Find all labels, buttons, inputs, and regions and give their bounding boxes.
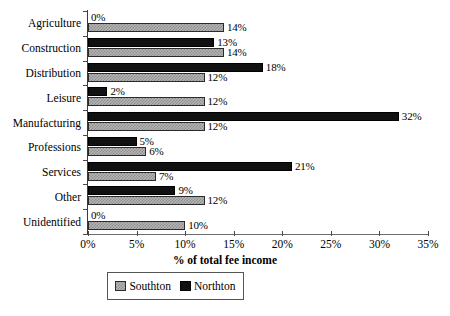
x-axis-tick-label: 25% [311,238,351,250]
y-axis-tick [83,160,88,161]
bar-northton [88,87,107,96]
bar-group: 21%7% [88,160,428,185]
y-axis-tick [83,135,88,136]
x-axis-tick-label: 30% [359,238,399,250]
bar-southton [88,73,205,82]
bar-southton [88,48,224,57]
bar-value-label-northton: 9% [178,185,192,196]
x-axis-tick [185,231,186,236]
category-label: Construction [0,42,81,54]
bar-group: 18%12% [88,61,428,86]
x-axis-tick-label: 0% [68,238,108,250]
x-axis-tick-label: 20% [262,238,302,250]
bar-chart: 0%14%13%14%18%12%2%12%32%12%5%6%21%7%9%1… [0,0,450,316]
bar-group: 9%12% [88,184,428,209]
bar-value-label-northton: 21% [295,161,315,172]
bar-northton [88,63,263,72]
y-axis-tick [83,184,88,185]
bar-group: 13%14% [88,36,428,61]
bar-southton [88,23,224,32]
x-axis-tick-label: 10% [165,238,205,250]
bar-southton [88,97,205,106]
legend-label-northton: Northton [194,280,236,292]
x-axis-tick [137,231,138,236]
bar-group: 32%12% [88,110,428,135]
x-axis-tick-label: 35% [408,238,448,250]
category-label: Services [0,166,81,178]
legend-entry-northton: Northton [180,280,236,292]
category-label: Agriculture [0,17,81,29]
y-axis-tick [83,85,88,86]
bar-group: 0%14% [88,11,428,36]
x-axis-tick [428,231,429,236]
legend-label-southton: Southton [129,280,171,292]
x-axis-tick [379,231,380,236]
y-axis-tick [83,110,88,111]
bar-southton [88,196,205,205]
bar-value-label-northton: 0% [91,12,105,23]
bar-value-label-southton: 14% [227,47,247,58]
category-label: Leisure [0,92,81,104]
bar-group: 2%12% [88,85,428,110]
y-axis-tick [83,209,88,210]
y-axis-tick [83,234,88,235]
bar-northton [88,137,137,146]
category-label: Other [0,191,81,203]
category-label: Manufacturing [0,117,81,129]
legend-swatch-southton [115,281,126,291]
bar-southton [88,122,205,131]
x-axis-tick [331,231,332,236]
y-axis-tick [83,11,88,12]
bar-value-label-southton: 14% [227,22,247,33]
x-axis-tick-label: 5% [117,238,157,250]
bar-value-label-southton: 12% [208,121,228,132]
bar-southton [88,221,185,230]
y-axis-tick [83,36,88,37]
bar-northton [88,162,292,171]
category-label: Unidentified [0,216,81,228]
bar-value-label-southton: 6% [149,146,163,157]
bar-northton [88,38,214,47]
bar-northton [88,186,175,195]
x-axis-tick [282,231,283,236]
bar-value-label-southton: 10% [188,220,208,231]
bar-value-label-northton: 2% [110,86,124,97]
category-label: Distribution [0,67,81,79]
bar-southton [88,172,156,181]
bar-value-label-northton: 0% [91,210,105,221]
x-axis-tick-label: 15% [214,238,254,250]
category-label: Professions [0,141,81,153]
plot-area: 0%14%13%14%18%12%2%12%32%12%5%6%21%7%9%1… [88,11,428,234]
x-axis-line [87,234,429,235]
bar-value-label-southton: 7% [159,171,173,182]
bar-group: 0%10% [88,209,428,234]
legend-swatch-northton [180,281,191,291]
legend-entry-southton: Southton [115,280,171,292]
bar-northton [88,112,399,121]
chart-legend: Southton Northton [107,272,244,300]
bar-value-label-southton: 12% [208,96,228,107]
bar-value-label-northton: 32% [402,111,422,122]
bar-southton [88,147,146,156]
bar-group: 5%6% [88,135,428,160]
x-axis-tick [234,231,235,236]
bar-value-label-southton: 12% [208,72,228,83]
bar-value-label-southton: 12% [208,195,228,206]
x-axis-tick [88,231,89,236]
x-axis-title: % of total fee income [0,254,450,267]
y-axis-tick [83,61,88,62]
bar-value-label-northton: 18% [266,62,286,73]
